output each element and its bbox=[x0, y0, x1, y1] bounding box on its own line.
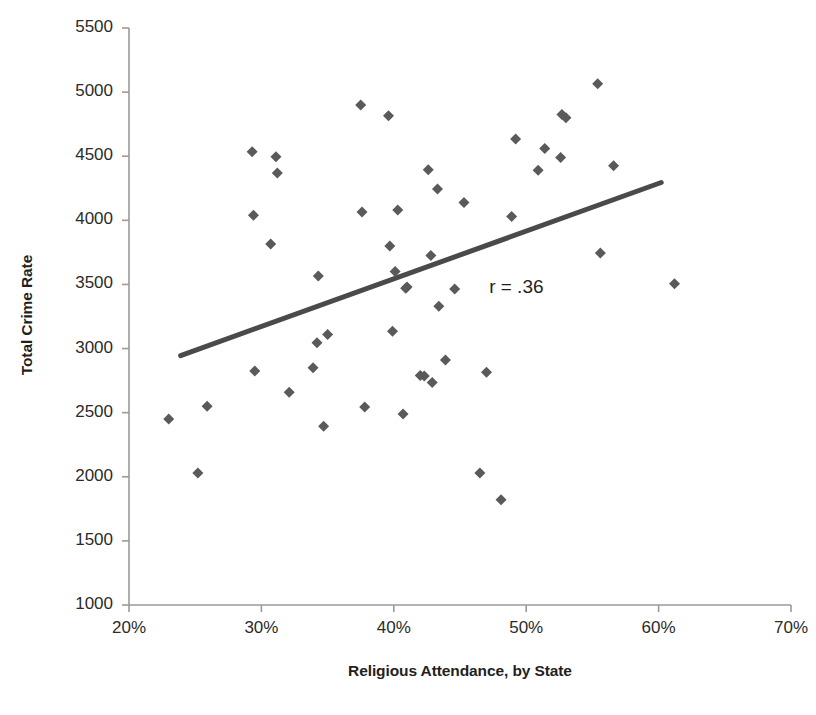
correlation-annotation: r = .36 bbox=[489, 276, 543, 298]
data-point bbox=[427, 377, 438, 388]
data-point bbox=[510, 133, 521, 144]
data-point bbox=[387, 326, 398, 337]
data-point bbox=[539, 143, 550, 154]
data-point bbox=[270, 151, 281, 162]
y-tick-label: 4000 bbox=[51, 209, 113, 229]
data-point bbox=[265, 239, 276, 250]
data-point bbox=[318, 421, 329, 432]
y-tick-label: 5500 bbox=[51, 17, 113, 37]
data-point bbox=[313, 271, 324, 282]
data-point bbox=[312, 337, 323, 348]
data-point bbox=[272, 167, 283, 178]
data-point bbox=[440, 355, 451, 366]
y-tick-label: 2000 bbox=[51, 466, 113, 486]
data-point bbox=[248, 210, 259, 221]
data-point bbox=[425, 250, 436, 261]
data-point bbox=[506, 211, 517, 222]
data-point bbox=[163, 414, 174, 425]
data-point bbox=[533, 165, 544, 176]
data-point bbox=[398, 408, 409, 419]
y-tick-label: 5000 bbox=[51, 81, 113, 101]
data-point bbox=[555, 152, 566, 163]
data-point bbox=[423, 164, 434, 175]
data-point bbox=[392, 205, 403, 216]
data-point bbox=[595, 248, 606, 259]
data-point bbox=[192, 467, 203, 478]
data-point bbox=[308, 362, 319, 373]
x-tick-label: 30% bbox=[221, 618, 301, 638]
y-tick-label: 1500 bbox=[51, 530, 113, 550]
data-point bbox=[481, 367, 492, 378]
data-point bbox=[384, 240, 395, 251]
data-point bbox=[247, 146, 258, 157]
data-point bbox=[449, 283, 460, 294]
data-point bbox=[432, 183, 443, 194]
x-tick-label: 60% bbox=[619, 618, 699, 638]
x-tick-label: 20% bbox=[89, 618, 169, 638]
data-points bbox=[163, 78, 680, 505]
y-tick-label: 4500 bbox=[51, 145, 113, 165]
data-point bbox=[383, 110, 394, 121]
trendline bbox=[181, 183, 662, 356]
data-point bbox=[669, 278, 680, 289]
y-tick-label: 3500 bbox=[51, 273, 113, 293]
y-tick-label: 3000 bbox=[51, 338, 113, 358]
data-point bbox=[249, 365, 260, 376]
data-point bbox=[592, 78, 603, 89]
data-point bbox=[474, 467, 485, 478]
data-point bbox=[322, 329, 333, 340]
data-point bbox=[433, 301, 444, 312]
x-tick-label: 70% bbox=[751, 618, 816, 638]
data-point bbox=[359, 401, 370, 412]
data-point bbox=[284, 387, 295, 398]
data-point bbox=[202, 401, 213, 412]
data-point bbox=[496, 494, 507, 505]
x-axis-title: Religious Attendance, by State bbox=[129, 662, 791, 680]
scatter-chart: 1000150020002500300035004000450050005500… bbox=[0, 0, 816, 715]
y-tick-label: 2500 bbox=[51, 402, 113, 422]
data-point bbox=[458, 197, 469, 208]
data-point bbox=[608, 160, 619, 171]
y-axis-title: Total Crime Rate bbox=[18, 205, 36, 425]
data-point bbox=[357, 206, 368, 217]
x-tick-label: 40% bbox=[354, 618, 434, 638]
axis-lines bbox=[122, 28, 791, 612]
trendline-segment bbox=[181, 183, 662, 356]
x-tick-label: 50% bbox=[486, 618, 566, 638]
y-tick-label: 1000 bbox=[51, 594, 113, 614]
data-point bbox=[355, 99, 366, 110]
plot-canvas bbox=[0, 0, 816, 715]
